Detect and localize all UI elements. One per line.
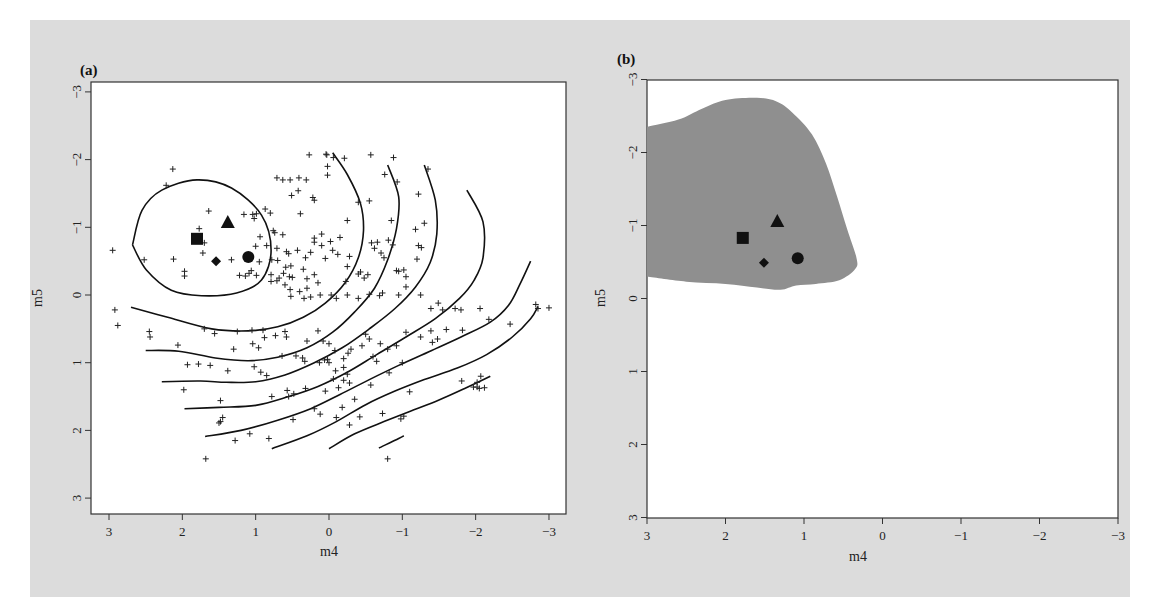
y-tick-label: 1 (625, 368, 640, 375)
panel-a-label: (a) (80, 62, 98, 79)
x-tick-label: 1 (801, 528, 808, 543)
x-tick-label: −3 (1111, 528, 1125, 543)
y-tick-label: 2 (69, 427, 84, 434)
y-tick-label: −3 (625, 73, 640, 87)
square-marker (191, 233, 203, 245)
x-tick-label: 1 (252, 524, 259, 539)
square-marker (737, 232, 749, 244)
circle-marker (792, 252, 804, 264)
y-tick-label: −1 (69, 220, 84, 234)
panel-b-label: (b) (617, 51, 635, 68)
x-tick-label: −1 (395, 524, 409, 539)
panel-b-y-axis-label: m5 (593, 289, 608, 307)
y-tick-label: 0 (69, 292, 84, 299)
panel-b-y-axis: −3−2−10123 (625, 73, 647, 521)
panel-a-x-axis-label: m4 (320, 544, 338, 559)
x-tick-label: 2 (722, 528, 729, 543)
panel-a-plot-area (91, 82, 566, 514)
circle-marker (242, 251, 254, 263)
y-tick-label: 3 (625, 514, 640, 521)
x-tick-label: 0 (326, 524, 333, 539)
panel-a-x-axis: 3210−1−2−3 (106, 514, 556, 539)
y-tick-label: −2 (625, 146, 640, 160)
panel-b-x-axis: 3210−1−2−3 (644, 518, 1125, 543)
y-tick-label: −3 (69, 85, 84, 99)
y-tick-label: −1 (625, 219, 640, 233)
x-tick-label: 3 (106, 524, 113, 539)
x-tick-label: −3 (542, 524, 556, 539)
panel-a-y-axis-label: m5 (30, 289, 45, 307)
figure-canvas: (a) 3210−1−2−3 −3−2−10123 m4 m5 (b) 3210… (0, 0, 1154, 597)
panel-a: (a) 3210−1−2−3 −3−2−10123 m4 m5 (30, 62, 566, 559)
panel-b: (b) 3210−1−2−3 −3−2−10123 m4 m5 (593, 51, 1125, 564)
y-tick-label: 0 (625, 295, 640, 302)
panel-a-y-axis: −3−2−10123 (69, 85, 91, 501)
x-tick-label: 0 (879, 528, 886, 543)
x-tick-label: −2 (1033, 528, 1047, 543)
y-tick-label: 1 (69, 359, 84, 366)
y-tick-label: 3 (69, 495, 84, 502)
y-tick-label: −2 (69, 153, 84, 167)
panel-b-x-axis-label: m4 (849, 549, 867, 564)
x-tick-label: 2 (179, 524, 186, 539)
x-tick-label: −1 (954, 528, 968, 543)
x-tick-label: −2 (469, 524, 483, 539)
x-tick-label: 3 (644, 528, 651, 543)
y-tick-label: 2 (625, 441, 640, 448)
